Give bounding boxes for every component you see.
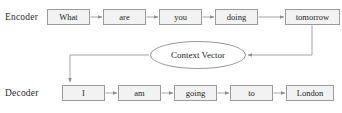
decoder-row-label: Decoder xyxy=(5,89,39,99)
decoder-token-box[interactable]: London xyxy=(286,85,334,101)
decoder-token-box[interactable]: am xyxy=(118,85,161,101)
encoder-row-label: Encoder xyxy=(5,13,38,23)
encoder-token-box[interactable]: you xyxy=(159,9,202,25)
encoder-token-box[interactable]: doing xyxy=(215,9,258,25)
context-vector-node[interactable]: Context Vector xyxy=(150,41,246,69)
encoder-token-box[interactable]: tomorrow xyxy=(285,9,340,25)
decoder-token-box[interactable]: I xyxy=(62,85,105,101)
decoder-token-box[interactable]: going xyxy=(174,85,217,101)
edge-context-to-i xyxy=(70,55,149,82)
encoder-decoder-diagram: Encoder Decoder What are you doing tomor… xyxy=(0,0,342,113)
decoder-token-box[interactable]: to xyxy=(230,85,273,101)
encoder-token-box[interactable]: What xyxy=(47,9,90,25)
edge-tomorrow-to-context xyxy=(248,26,312,56)
encoder-token-box[interactable]: are xyxy=(103,9,146,25)
